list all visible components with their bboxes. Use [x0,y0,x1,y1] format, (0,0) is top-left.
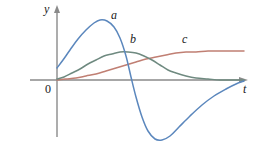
axes-group [30,5,248,137]
plot-area [0,0,255,152]
curve-label-a: a [111,9,117,21]
curve-label-c: c [182,33,187,45]
curve-label-b: b [130,33,136,45]
graph-figure: y t 0 a b c [0,0,255,152]
y-axis-arrowhead [54,5,60,13]
origin-label: 0 [45,83,51,95]
y-axis-label: y [44,3,49,15]
x-axis-label: t [243,83,246,95]
